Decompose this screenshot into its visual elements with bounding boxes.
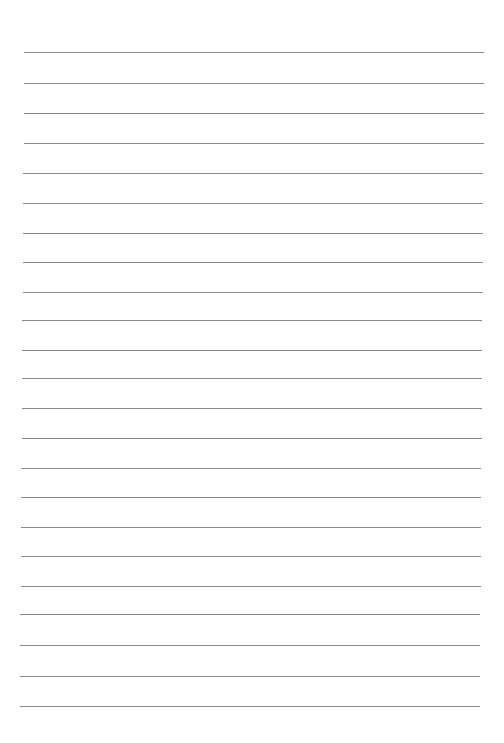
ruled-line [20,706,480,707]
ruled-line [20,645,480,646]
ruled-line [23,233,483,234]
ruled-line [21,586,481,587]
ruled-line [24,83,484,84]
ruled-line [24,143,484,144]
ruled-line [23,262,483,263]
ruled-line [23,173,483,174]
ruled-line [20,676,480,677]
ruled-line [22,350,482,351]
ruled-line [23,203,483,204]
ruled-line [24,113,484,114]
ruled-line [22,408,482,409]
ruled-line [22,378,482,379]
lined-paper-page [0,0,504,743]
ruled-line [22,438,482,439]
ruled-line [24,52,484,53]
ruled-line [23,292,483,293]
ruled-line [22,320,482,321]
ruled-line [21,527,481,528]
ruled-line [21,556,481,557]
ruled-line [20,614,480,615]
ruled-line [21,497,481,498]
ruled-line [21,468,481,469]
